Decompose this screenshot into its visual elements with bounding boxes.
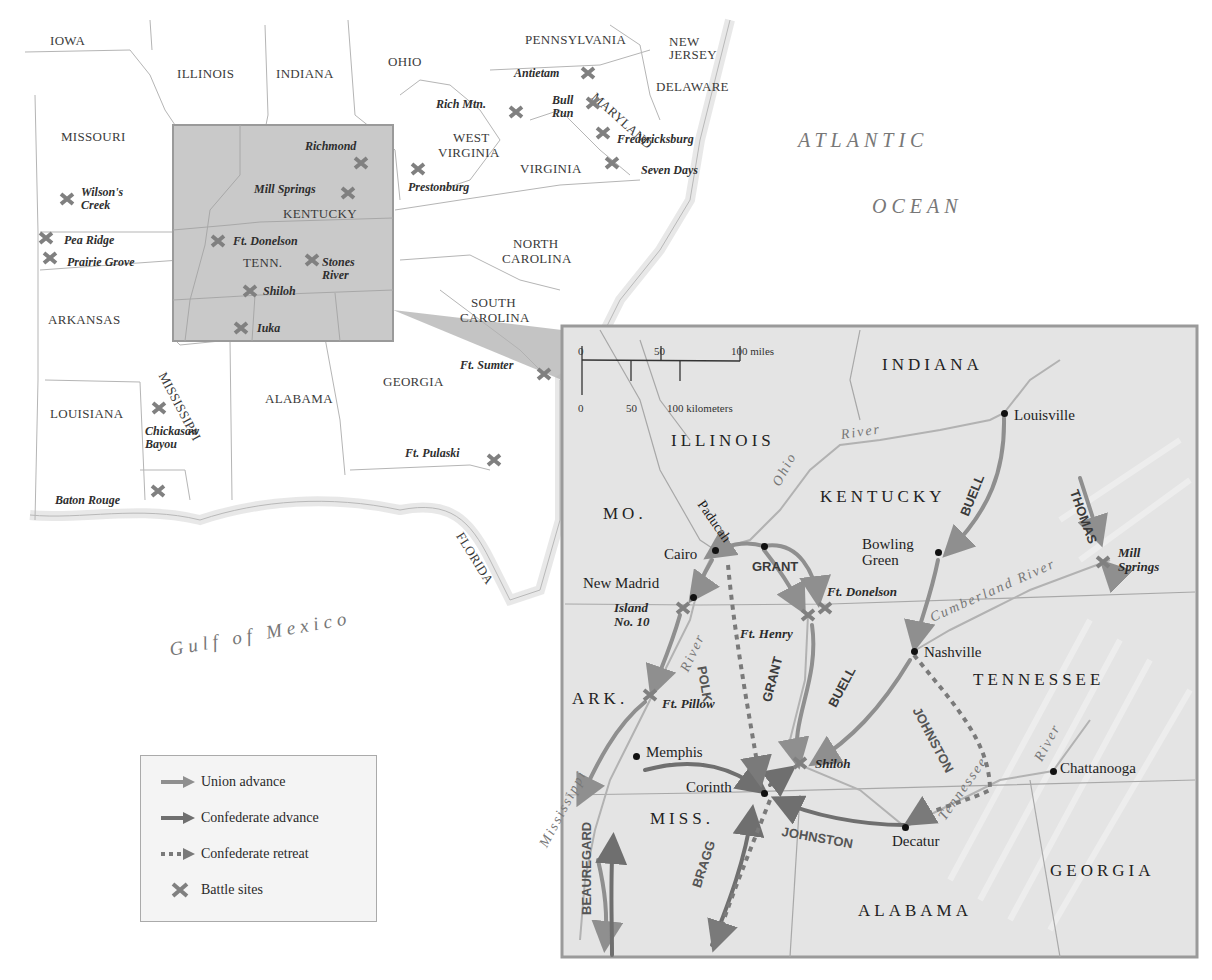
state-label: GEORGIA <box>383 375 444 388</box>
battle-x-icon <box>353 156 369 170</box>
legend-label: Battle sites <box>201 882 263 898</box>
city-dot-icon <box>1050 768 1057 775</box>
ocean-label: OCEAN <box>872 196 963 216</box>
battle-x-icon <box>233 321 249 335</box>
scale-km-50: 50 <box>626 403 637 414</box>
battle-x-icon <box>210 234 226 248</box>
state-label: ALABAMA <box>265 392 333 405</box>
scale-miles-100: 100 miles <box>731 346 774 357</box>
battle-label: Ft. Donelson <box>827 585 897 599</box>
state-label: WEST <box>453 131 490 144</box>
inset-state-label: ILLINOIS <box>671 432 775 449</box>
city-label: New Madrid <box>583 576 659 592</box>
state-label: TENN. <box>243 256 282 269</box>
legend-item-confederate-advance: Confederate advance <box>141 808 319 828</box>
city-label: Cairo <box>664 547 697 563</box>
inset-state-label: MISS. <box>650 810 714 827</box>
battle-x-icon <box>1095 555 1111 569</box>
battle-label: Antietam <box>514 67 559 80</box>
city-label: BowlingGreen <box>862 537 914 569</box>
legend-item-battle-sites: Battle sites <box>141 880 263 900</box>
city-dot-icon <box>690 594 697 601</box>
legend-label: Union advance <box>201 774 285 790</box>
battle-label: IslandNo. 10 <box>614 601 649 628</box>
battle-label: Shiloh <box>815 757 850 771</box>
legend-label: Confederate advance <box>201 810 319 826</box>
legend-label: Confederate retreat <box>201 846 309 862</box>
battle-x-icon <box>604 156 620 170</box>
city-label: Memphis <box>646 745 703 761</box>
battle-x-icon <box>410 162 426 176</box>
scale-km-100: 100 kilometers <box>667 403 733 414</box>
battle-label: Pea Ridge <box>64 234 114 247</box>
city-dot-icon <box>1001 410 1008 417</box>
battle-x-icon <box>508 105 524 119</box>
union-arrow-icon <box>141 772 201 792</box>
battle-x-icon <box>340 186 356 200</box>
city-dot-icon <box>712 547 719 554</box>
battle-x-icon <box>38 231 54 245</box>
state-label: CAROLINA <box>502 252 572 265</box>
confederate-arrow-icon <box>141 808 201 828</box>
state-label: PENNSYLVANIA <box>525 33 626 46</box>
battle-label: Shiloh <box>263 285 296 298</box>
battle-label: MillSprings <box>1118 546 1159 573</box>
battle-x-icon <box>59 192 75 206</box>
battle-x-icon <box>536 367 552 381</box>
battle-x-icon <box>642 688 658 702</box>
scale-km-0: 0 <box>578 403 584 414</box>
battle-label: Ft. Pulaski <box>405 447 460 460</box>
city-dot-icon <box>902 824 909 831</box>
battle-label: Prestonburg <box>408 181 469 194</box>
battle-label: Seven Days <box>641 164 698 177</box>
legend-item-union: Union advance <box>141 772 285 792</box>
battle-label: Ft. Sumter <box>460 359 513 372</box>
state-label: ARKANSAS <box>48 313 120 326</box>
ocean-label: ATLANTIC <box>798 130 928 150</box>
legend: Union advance Confederate advance Confed… <box>140 755 377 922</box>
legend-item-confederate-retreat: Confederate retreat <box>141 844 309 864</box>
battle-label: Baton Rouge <box>55 494 120 507</box>
battle-x-icon <box>304 253 320 267</box>
state-label: NORTH <box>513 237 559 250</box>
general-label: BEAUREGARD <box>580 822 593 915</box>
battle-x-icon <box>486 453 502 467</box>
battle-label: Rich Mtn. <box>436 98 486 111</box>
city-dot-icon <box>911 648 918 655</box>
battle-label: Mill Springs <box>254 183 316 196</box>
city-label: Nashville <box>924 645 982 661</box>
inset-state-label: ARK. <box>572 690 628 707</box>
state-label: JERSEY <box>669 48 717 61</box>
battle-label: Fredericksburg <box>617 133 694 146</box>
state-label: CAROLINA <box>460 311 530 324</box>
state-label: MISSOURI <box>61 130 126 143</box>
city-dot-icon <box>935 549 942 556</box>
battle-label: Prairie Grove <box>67 256 135 269</box>
battle-label: Iuka <box>257 322 280 335</box>
battle-x-icon <box>242 284 258 298</box>
city-dot-icon <box>761 790 768 797</box>
inset-state-label: KENTUCKY <box>820 488 946 505</box>
city-label: Decatur <box>892 834 939 850</box>
battle-x-icon <box>151 401 167 415</box>
state-label: INDIANA <box>276 67 334 80</box>
battle-label: Ft. Donelson <box>233 235 298 248</box>
battle-x-icon <box>42 251 58 265</box>
battle-label: ChickasawBayou <box>145 425 199 450</box>
retreat-arrow-icon <box>141 844 201 864</box>
battle-x-icon <box>792 756 808 770</box>
battle-label: BullRun <box>552 94 573 119</box>
scale-miles-50: 50 <box>654 346 665 357</box>
battle-x-icon <box>150 484 166 498</box>
battle-x-icon <box>800 608 816 622</box>
state-label: ILLINOIS <box>177 67 234 80</box>
battle-x-icon <box>595 126 611 140</box>
battle-label: Richmond <box>305 140 356 153</box>
battle-x-icon <box>675 601 691 615</box>
city-label: Louisville <box>1014 408 1075 424</box>
state-label: VIRGINIA <box>520 162 582 175</box>
state-label: KENTUCKY <box>283 207 357 220</box>
battle-x-icon <box>580 66 596 80</box>
inset-state-label: INDIANA <box>882 356 983 373</box>
state-label: DELAWARE <box>656 80 729 93</box>
